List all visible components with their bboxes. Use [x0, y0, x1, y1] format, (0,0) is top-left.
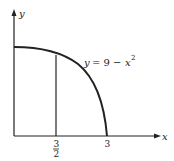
y-axis-label: y	[18, 8, 25, 19]
x-axis-arrow-icon	[154, 134, 161, 139]
tick-label-3-2-denominator: 2	[54, 149, 60, 159]
y-axis-arrow-icon	[12, 9, 17, 16]
x-axis-label: x	[162, 131, 168, 142]
curve-label-lhs: y	[83, 57, 90, 68]
graph-figure: y x y = 9 − x 2 3 2 3	[0, 0, 174, 161]
graph-svg: y x y = 9 − x 2 3 2 3	[0, 0, 174, 161]
curve-label-exponent: 2	[131, 54, 135, 62]
curve-label-eq: = 9 −	[92, 57, 121, 68]
tick-label-3: 3	[105, 139, 111, 149]
tick-label-3-2-numerator: 3	[54, 139, 60, 149]
